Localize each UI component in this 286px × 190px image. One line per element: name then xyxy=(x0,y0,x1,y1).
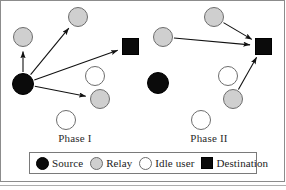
legend-item-source: Source xyxy=(36,157,83,170)
idle-user-node-icon xyxy=(139,157,152,170)
phase-1-idle-middle-node xyxy=(85,66,105,86)
source-node-icon xyxy=(36,157,49,170)
phase-2-relay-left-node xyxy=(153,27,173,47)
legend: Source Relay Idle user Destination xyxy=(29,152,257,174)
phase-1-relay-lower-node xyxy=(90,89,110,109)
phase-2-label: Phase II xyxy=(179,132,239,144)
phase-1-source-node xyxy=(12,73,34,95)
relay-node-icon xyxy=(90,157,103,170)
edge-group xyxy=(23,23,257,97)
destination-node-icon xyxy=(201,157,213,169)
legend-label-relay: Relay xyxy=(106,157,132,169)
legend-label-destination: Destination xyxy=(216,157,268,169)
phase-1-arrow-source-to-relay-top xyxy=(31,28,69,75)
figure-container: Phase I Phase II Source Relay Idle user … xyxy=(0,0,286,190)
phase-2-arrow-relay-lower-to-destination xyxy=(238,57,256,89)
phase-1-relay-upper-left-node xyxy=(13,27,33,47)
phase-1-arrow-source-to-relay-lower xyxy=(35,86,86,96)
phase-2-destination-node xyxy=(255,38,272,55)
legend-item-relay: Relay xyxy=(90,157,132,170)
phase-2-source-node xyxy=(147,72,169,94)
phase-2-relay-lower-node xyxy=(223,89,243,109)
legend-label-source: Source xyxy=(52,157,83,169)
bottom-divider xyxy=(0,185,286,186)
phase-2-idle-middle-node xyxy=(218,66,238,86)
phase-2-arrow-relay-top-to-destination xyxy=(223,23,251,40)
phase-1-idle-bottom-node xyxy=(56,110,76,130)
phase-2-idle-bottom-node xyxy=(191,110,211,130)
legend-label-idle: Idle user xyxy=(155,157,194,169)
phase-1-relay-top-node xyxy=(68,7,88,27)
phase-1-label: Phase I xyxy=(45,132,105,144)
legend-item-idle: Idle user xyxy=(139,157,194,170)
phase-2-relay-top-node xyxy=(204,7,224,27)
phase-1-destination-node xyxy=(122,38,139,55)
phase-2-arrow-relay-left-to-destination xyxy=(174,38,250,45)
legend-item-destination: Destination xyxy=(201,157,268,169)
